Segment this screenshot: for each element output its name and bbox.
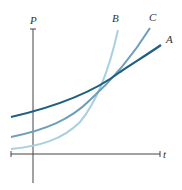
curve-a-label: A — [165, 33, 173, 45]
curve-b-label: B — [112, 12, 119, 24]
y-axis-label: P — [29, 14, 37, 26]
x-axis-label: t — [163, 148, 167, 160]
exponential-curves-chart: P t B C A — [0, 0, 182, 190]
curve-c-label: C — [149, 11, 157, 23]
